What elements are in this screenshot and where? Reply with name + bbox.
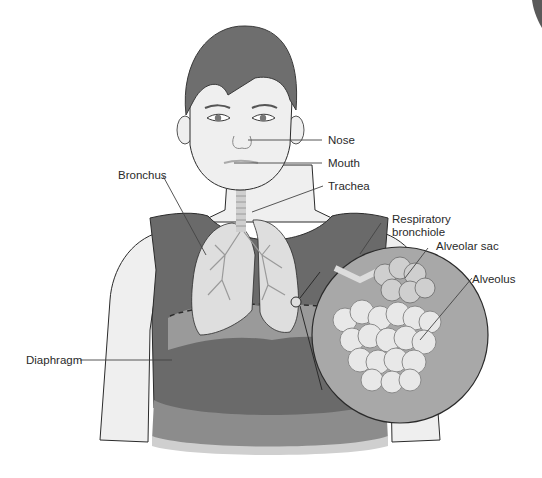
label-diaphragm: Diaphragm bbox=[26, 354, 82, 367]
label-mouth: Mouth bbox=[328, 157, 360, 170]
label-respiratory-bronchiole-line1: Respiratory bbox=[392, 213, 451, 226]
label-nose: Nose bbox=[328, 134, 355, 147]
respiratory-diagram: Nose Mouth Trachea Bronchus Respiratory … bbox=[0, 0, 542, 478]
label-trachea: Trachea bbox=[328, 180, 370, 193]
label-bronchus: Bronchus bbox=[118, 169, 167, 182]
label-alveolus: Alveolus bbox=[472, 273, 515, 286]
diagram-illustration bbox=[0, 0, 542, 478]
label-alveolar-sac: Alveolar sac bbox=[436, 240, 499, 253]
corner-fragment bbox=[532, 0, 542, 28]
label-respiratory-bronchiole-line2: bronchiole bbox=[392, 226, 445, 239]
